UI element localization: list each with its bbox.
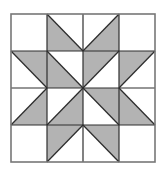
quilt-block-diagram — [0, 0, 162, 170]
